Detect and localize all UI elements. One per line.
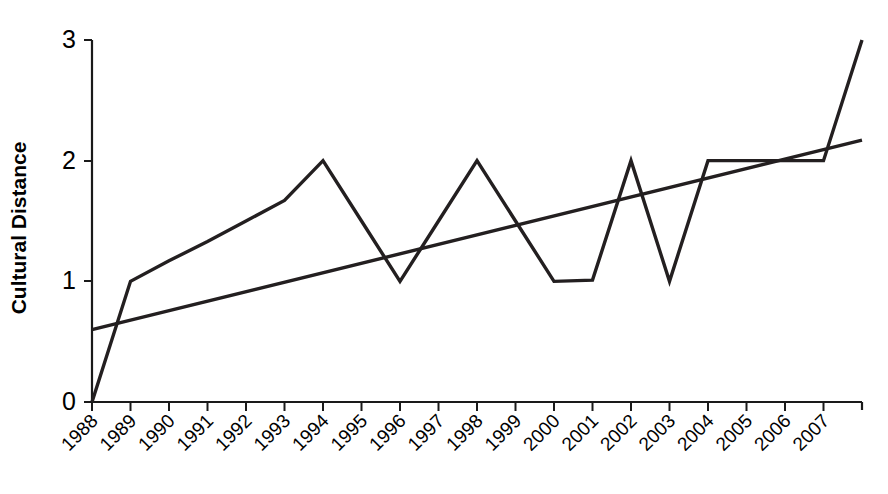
y-tick-label-1: 1	[62, 266, 76, 294]
y-tick-label-0: 0	[62, 387, 76, 415]
chart-container: 0 1 2 3 Cultural Distance 19881989199019…	[0, 0, 888, 494]
y-tick-label-2: 2	[62, 146, 76, 174]
y-axis-title: Cultural Distance	[7, 142, 30, 315]
line-chart: 0 1 2 3 Cultural Distance 19881989199019…	[0, 0, 888, 494]
y-tick-label-3: 3	[62, 25, 76, 53]
